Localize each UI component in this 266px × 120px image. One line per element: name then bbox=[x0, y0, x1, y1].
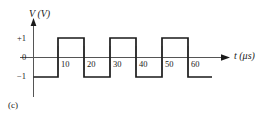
x-tick-label-20: 20 bbox=[87, 60, 96, 69]
x-tick-label-60: 60 bbox=[191, 60, 200, 69]
figure-square-wave: V (V) +1 0 −1 10 20 30 40 50 60 t (μs) (… bbox=[0, 0, 266, 120]
x-tick-label-30: 30 bbox=[113, 60, 122, 69]
y-tick-label-minus1: −1 bbox=[17, 72, 26, 81]
x-tick-label-50: 50 bbox=[165, 60, 174, 69]
x-tick-label-40: 40 bbox=[139, 60, 148, 69]
y-tick-label-plus1: +1 bbox=[17, 34, 26, 43]
y-axis-title: V (V) bbox=[29, 9, 50, 19]
figure-caption: (c) bbox=[8, 101, 18, 110]
y-tick-label-zero: 0 bbox=[22, 53, 26, 62]
x-axis-title: t (μs) bbox=[234, 51, 255, 61]
x-tick-label-10: 10 bbox=[61, 60, 70, 69]
